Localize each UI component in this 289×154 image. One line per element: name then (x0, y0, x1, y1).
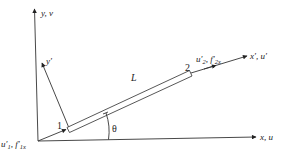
node2-label: 2 (185, 62, 190, 73)
local-x-axis-label: x′, u′ (249, 51, 268, 61)
length-label: L (130, 72, 137, 83)
global-y-axis-label: y, v (40, 8, 53, 18)
global-x-axis-label: x, u (259, 132, 273, 142)
node1-force-arrow (38, 130, 66, 142)
angle-arc (106, 113, 109, 140)
bar-element-diagram: y, v x, u y′ x′, u′ θ L 1 2 u′1, f′1x u′… (0, 0, 289, 154)
node1-label: 1 (57, 120, 62, 131)
bar-element (67, 71, 192, 133)
global-y-axis (35, 9, 39, 141)
local-y-axis (42, 63, 69, 128)
angle-label: θ (112, 123, 117, 134)
global-x-axis (38, 137, 256, 141)
local-y-axis-label: y′ (45, 56, 53, 66)
node2-dof-label: u′2, f′2x (196, 54, 221, 65)
node1-dof-label: u′1, f′1x (1, 139, 26, 150)
node2-force-arrow (204, 65, 216, 69)
